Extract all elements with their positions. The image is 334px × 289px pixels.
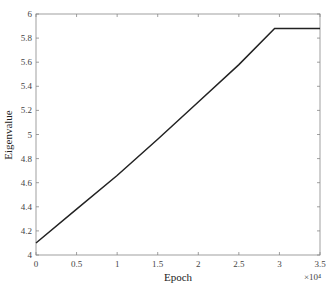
plot-frame — [36, 14, 320, 255]
y-tick-label: 6 — [28, 9, 33, 19]
eigenvalue-chart: 00.511.522.533.544.24.44.64.855.25.45.65… — [0, 0, 334, 289]
y-tick-label: 5.8 — [21, 33, 33, 43]
x-tick-label: 3.5 — [314, 259, 326, 269]
y-tick-label: 4.8 — [21, 154, 33, 164]
y-tick-label: 4 — [28, 250, 33, 260]
y-tick-label: 5.4 — [21, 81, 33, 91]
x-tick-label: 0.5 — [71, 259, 83, 269]
x-tick-label: 2 — [196, 259, 201, 269]
x-multiplier: ×10⁴ — [304, 272, 321, 282]
y-tick-label: 5.6 — [21, 57, 33, 67]
x-tick-label: 0 — [34, 259, 39, 269]
x-tick-label: 1.5 — [152, 259, 164, 269]
y-tick-label: 4.2 — [21, 226, 32, 236]
x-tick-label: 3 — [277, 259, 282, 269]
plot-axes: 00.511.522.533.544.24.44.64.855.25.45.65… — [21, 9, 326, 269]
x-tick-label: 1 — [115, 259, 120, 269]
y-tick-label: 5 — [28, 130, 33, 140]
y-tick-label: 5.2 — [21, 105, 32, 115]
y-axis-label: Eigenvalue — [2, 110, 14, 160]
x-tick-label: 2.5 — [233, 259, 245, 269]
x-axis-label: Epoch — [164, 271, 193, 283]
y-tick-label: 4.4 — [21, 202, 33, 212]
eigenvalue-line — [36, 29, 320, 244]
y-tick-label: 4.6 — [21, 178, 33, 188]
